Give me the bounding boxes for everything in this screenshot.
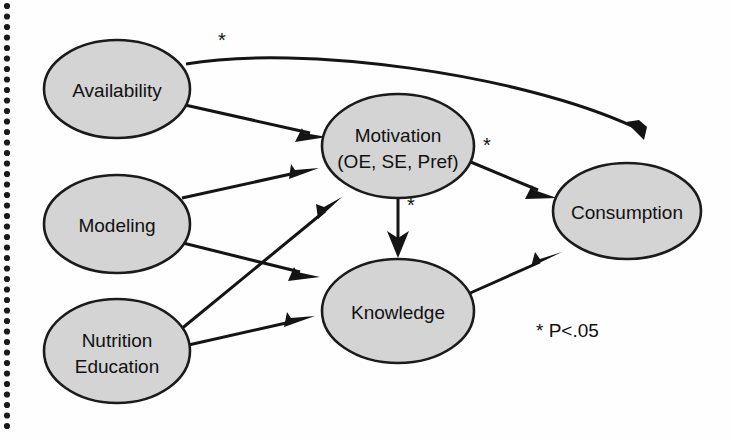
scan-margin-dot bbox=[4, 307, 10, 313]
arrow-head bbox=[289, 164, 319, 179]
scan-margin-dot bbox=[4, 118, 10, 124]
significance-asterisk-motivation-consumption: * bbox=[483, 134, 491, 156]
node-label-line2: (OE, SE, Pref) bbox=[337, 151, 458, 172]
scan-margin-dot bbox=[4, 423, 10, 429]
edge-nutrition-education-to-motivation bbox=[180, 197, 342, 330]
legend-significance: * P<.05 bbox=[536, 320, 599, 341]
scan-margin-dot bbox=[4, 24, 10, 30]
figure-canvas: Availability Modeling Nutrition Educatio… bbox=[0, 0, 732, 439]
scan-margin-dot bbox=[4, 192, 10, 198]
significance-asterisk-availability-consumption: * bbox=[218, 29, 226, 51]
edge-motivation-to-knowledge bbox=[387, 199, 409, 258]
node-modeling[interactable]: Modeling bbox=[44, 175, 190, 273]
scan-margin-dot bbox=[4, 328, 10, 334]
scan-margin-dot bbox=[4, 213, 10, 219]
scan-margin-dot bbox=[4, 76, 10, 82]
scan-margin-dot bbox=[4, 244, 10, 250]
scan-margin-dot bbox=[4, 55, 10, 61]
node-availability[interactable]: Availability bbox=[44, 40, 190, 138]
edge-availability-to-motivation bbox=[185, 105, 327, 142]
edge-modeling-to-knowledge bbox=[183, 243, 320, 281]
scan-margin-dot bbox=[4, 349, 10, 355]
arrow-head bbox=[284, 312, 315, 327]
scan-margin-dot bbox=[4, 139, 10, 145]
scan-margin-dot bbox=[4, 223, 10, 229]
arrow-head bbox=[316, 197, 342, 219]
node-label: Modeling bbox=[78, 215, 155, 236]
node-consumption[interactable]: Consumption bbox=[553, 163, 701, 259]
edge-modeling-to-motivation bbox=[182, 164, 319, 198]
scan-margin-dot bbox=[4, 318, 10, 324]
scan-margin-dot bbox=[4, 45, 10, 51]
scan-margin-dot bbox=[4, 13, 10, 19]
scan-margin-dot bbox=[4, 108, 10, 114]
node-knowledge[interactable]: Knowledge bbox=[322, 259, 474, 363]
edge-motivation-to-consumption bbox=[466, 160, 557, 199]
scan-margin-dot bbox=[4, 265, 10, 271]
scan-margin-dot bbox=[4, 66, 10, 72]
scan-margin-dot bbox=[4, 181, 10, 187]
scan-margin-dot bbox=[4, 402, 10, 408]
scan-margin-dot bbox=[4, 297, 10, 303]
node-nutrition-education[interactable]: Nutrition Education bbox=[44, 299, 190, 403]
scan-margin-dot bbox=[4, 234, 10, 240]
scan-margin-dot bbox=[4, 160, 10, 166]
node-label: Availability bbox=[72, 80, 162, 101]
node-motivation[interactable]: Motivation (OE, SE, Pref) bbox=[322, 94, 474, 198]
arrow-head bbox=[626, 120, 647, 140]
scan-margin-dot bbox=[4, 370, 10, 376]
edge-line bbox=[180, 211, 325, 330]
scan-margin-dot bbox=[4, 129, 10, 135]
scan-margin-dot bbox=[4, 202, 10, 208]
edge-nutrition-education-to-knowledge bbox=[184, 312, 315, 346]
edge-line bbox=[185, 105, 310, 133]
scan-margin-dot bbox=[4, 87, 10, 93]
edge-line bbox=[468, 262, 540, 294]
significance-asterisk-motivation-knowledge: * bbox=[407, 194, 415, 216]
node-label-line2: Education bbox=[75, 356, 160, 377]
path-diagram: Availability Modeling Nutrition Educatio… bbox=[0, 0, 732, 439]
scan-margin-dot bbox=[4, 412, 10, 418]
scan-margin-dot bbox=[4, 255, 10, 261]
node-label-line1: Nutrition bbox=[82, 330, 153, 351]
node-label-line1: Motivation bbox=[355, 125, 442, 146]
node-label: Consumption bbox=[571, 202, 683, 223]
scan-margin-dot bbox=[4, 339, 10, 345]
scan-margin-dot bbox=[4, 391, 10, 397]
scan-margin-dot bbox=[4, 286, 10, 292]
scan-margin-dot bbox=[4, 3, 10, 9]
scan-margin-dots bbox=[4, 3, 10, 429]
edge-line bbox=[466, 160, 538, 190]
scan-margin-dot bbox=[4, 381, 10, 387]
scan-margin-dot bbox=[4, 171, 10, 177]
edge-line bbox=[184, 321, 295, 346]
node-label: Knowledge bbox=[351, 302, 445, 323]
scan-margin-dot bbox=[4, 150, 10, 156]
scan-margin-dot bbox=[4, 360, 10, 366]
scan-margin-dot bbox=[4, 34, 10, 40]
scan-margin-dot bbox=[4, 276, 10, 282]
edge-line bbox=[182, 172, 300, 198]
edge-knowledge-to-consumption bbox=[468, 252, 562, 294]
scan-margin-dot bbox=[4, 97, 10, 103]
